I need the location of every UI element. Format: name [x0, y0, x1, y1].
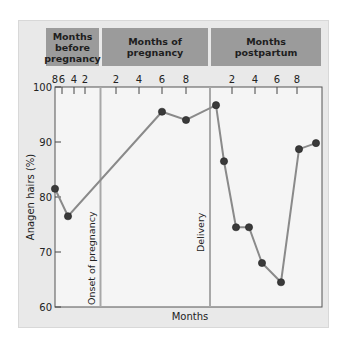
- line-chart: 60708090100 864224682468 Anagen hairs (%…: [0, 0, 346, 342]
- data-point: [245, 224, 252, 231]
- data-point: [158, 108, 165, 115]
- y-tick-label: 100: [33, 82, 52, 93]
- onset-annotation: Onset of pregnancy: [86, 211, 97, 305]
- data-point: [64, 213, 71, 220]
- x-tick-label: 6: [59, 74, 65, 85]
- data-point: [277, 279, 284, 286]
- data-point: [182, 116, 189, 123]
- x-tick-label: 2: [82, 74, 88, 85]
- y-axis-label: Anagen hairs (%): [25, 154, 36, 240]
- y-tick-label: 60: [39, 302, 52, 313]
- x-tick-label: 8: [294, 74, 300, 85]
- data-point: [212, 102, 219, 109]
- x-tick-label: 8: [183, 74, 189, 85]
- data-point: [51, 185, 58, 192]
- y-tick-label: 70: [39, 247, 52, 258]
- x-axis-label: Months: [172, 311, 209, 322]
- y-tick-label: 90: [39, 137, 52, 148]
- data-point: [295, 146, 302, 153]
- x-tick-label: 6: [274, 74, 280, 85]
- x-tick-label: 4: [252, 74, 258, 85]
- delivery-annotation: Delivery: [195, 212, 206, 252]
- y-tick-label: 80: [39, 192, 52, 203]
- data-point: [220, 158, 227, 165]
- data-point: [232, 224, 239, 231]
- x-tick-label: 4: [136, 74, 142, 85]
- data-point: [312, 140, 319, 147]
- x-tick-label: 8: [52, 74, 58, 85]
- data-point: [258, 259, 265, 266]
- x-tick-label: 4: [71, 74, 77, 85]
- x-tick-label: 6: [159, 74, 165, 85]
- x-tick-label: 2: [229, 74, 235, 85]
- x-tick-label: 2: [113, 74, 119, 85]
